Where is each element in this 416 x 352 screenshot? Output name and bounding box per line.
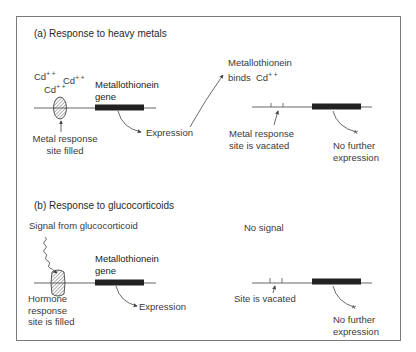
gene-label: Metallothionein gene bbox=[95, 253, 159, 276]
no-further-expression-label: No further expression bbox=[333, 140, 379, 163]
cd-ion-label: Cd+ + bbox=[63, 72, 85, 87]
blocked-expression-icon bbox=[333, 286, 354, 307]
metal-site-vacated-label: Metal response site is vacated bbox=[229, 128, 294, 151]
expression-label: Expression bbox=[146, 127, 193, 139]
expression-label: Expression bbox=[139, 301, 186, 313]
panel-a-title: (a) Response to heavy metals bbox=[34, 28, 167, 40]
expression-arrow-icon bbox=[118, 111, 141, 132]
panel-b-title: (b) Response to glucocorticoids bbox=[34, 200, 174, 212]
no-signal-label: No signal bbox=[244, 222, 284, 234]
signal-wave-icon bbox=[44, 237, 58, 273]
binds-arrow-icon bbox=[190, 75, 223, 127]
metal-response-site-icon bbox=[54, 97, 67, 119]
signal-label: Signal from glucocorticoid bbox=[29, 220, 138, 232]
gene-bar-icon bbox=[95, 105, 144, 111]
metal-site-filled-label: Metal response site filled bbox=[28, 133, 102, 156]
hormone-site-filled-label: Hormone response site is filled bbox=[28, 293, 74, 328]
gene-bar-icon bbox=[95, 280, 144, 286]
blocked-expression-icon bbox=[333, 111, 356, 132]
metallothionein-binds-label: Metallothionein binds Cd+ + bbox=[228, 57, 292, 83]
expression-arrow-icon bbox=[116, 286, 137, 306]
panel-a-dna-active bbox=[34, 97, 156, 132]
no-further-expression-label: No further expression bbox=[333, 314, 379, 337]
cd-ion-label: Cd+ + bbox=[44, 81, 66, 96]
gene-label: Metallothionein gene bbox=[95, 79, 159, 102]
gene-bar-icon bbox=[312, 104, 361, 110]
site-vacated-label: Site is vacated bbox=[234, 293, 296, 305]
gene-bar-icon bbox=[312, 279, 361, 285]
